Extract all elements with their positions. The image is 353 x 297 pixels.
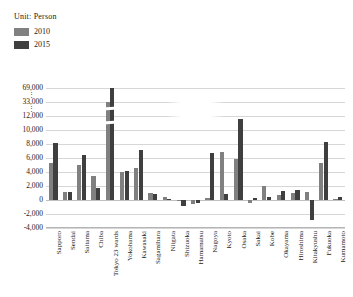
y-axis-tick-label: 10,000 — [22, 126, 43, 134]
x-axis-label: Osaka — [241, 231, 248, 249]
bar-chart: Unit: Person 2010 2015 -4,000-2,00002,00… — [0, 0, 353, 297]
y-axis-tick-label: 4,000 — [26, 168, 43, 176]
axis-bottom-line — [46, 227, 345, 228]
plot-area: -4,000-2,00002,0004,0006,0008,00010,0001… — [46, 88, 345, 228]
y-axis-tick-label: 0 — [39, 196, 43, 204]
x-axis-label: Saitama — [84, 231, 91, 254]
y-axis-tick-label: 8,000 — [26, 140, 43, 148]
x-axis-label: Kitakyushu — [312, 231, 319, 263]
x-axis-label: Kawasaki — [141, 231, 148, 259]
x-axis-label: Kumamoto — [340, 231, 347, 263]
x-axis-label: Fukuoka — [326, 231, 333, 256]
x-axis-label: Okayama — [283, 231, 290, 258]
x-axis-label: Sagamihara — [155, 231, 162, 264]
x-axis-label: Kobe — [269, 231, 276, 246]
legend-label-2010: 2010 — [34, 28, 50, 36]
y-axis-break-indicator: ⋮ — [28, 106, 35, 112]
y-axis-tick-label: 2,000 — [26, 182, 43, 190]
unit-caption: Unit: Person — [14, 12, 57, 21]
y-axis-tick-label: -2,000 — [24, 210, 43, 218]
x-axis-label: Sapporo — [56, 231, 63, 254]
y-axis-tick-label: -4,000 — [24, 224, 43, 232]
y-axis-tick-label: 6,000 — [26, 154, 43, 162]
legend-swatch-2015 — [14, 41, 29, 49]
x-axis-label: Hiroshima — [298, 231, 305, 261]
x-axis-label: Hamamatsu — [198, 231, 205, 264]
legend-item-2015: 2015 — [14, 39, 50, 50]
legend-label-2015: 2015 — [34, 41, 50, 49]
y-axis-tick-label: 12,000 — [22, 112, 43, 120]
y-axis-break-indicator: ⋮ — [28, 92, 35, 98]
legend-swatch-2010 — [14, 28, 29, 36]
x-axis-label: Kyoto — [226, 231, 233, 249]
legend-item-2010: 2010 — [14, 26, 50, 37]
legend: 2010 2015 — [14, 26, 50, 52]
x-axis-label: Nagoya — [212, 231, 219, 253]
x-axis-label: Niigata — [170, 231, 177, 252]
x-axis-label: Sakai — [255, 231, 262, 247]
x-axis-label: Yokohama — [127, 231, 134, 261]
x-axis-label: Shizuoka — [184, 231, 191, 257]
x-axis-label: Sendai — [70, 231, 77, 250]
axis-break-marks — [46, 88, 345, 228]
x-axis-label: Chiba — [98, 231, 105, 248]
x-axis-label: Tokyo 23 wards — [113, 231, 120, 276]
x-axis-labels: SapporoSendaiSaitamaChibaTokyo 23 wardsY… — [46, 231, 345, 295]
